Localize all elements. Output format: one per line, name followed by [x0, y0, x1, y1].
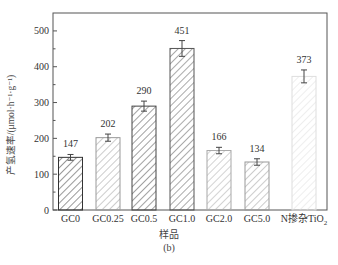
y-tick-label: 0	[44, 205, 49, 216]
value-label: 373	[297, 54, 312, 65]
figure-caption: (b)	[0, 242, 338, 253]
x-tick-label: GC1.0	[169, 213, 195, 224]
bar-GC5.0: 134	[245, 143, 269, 210]
y-axis-label-text: 产氢速率/(μmol·h⁻¹·g⁻¹)	[3, 75, 17, 175]
value-label: 202	[101, 118, 116, 129]
value-label: 451	[175, 25, 190, 36]
x-tick-label: GC0	[61, 213, 80, 224]
y-tick-label: 300	[34, 97, 49, 108]
x-axis-label: 样品	[0, 226, 338, 241]
bar-GC0.5: 290	[132, 85, 156, 210]
y-tick-label: 200	[34, 133, 49, 144]
x-tick-label: GC0.25	[92, 213, 123, 224]
x-tick-label: GC0.5	[131, 213, 157, 224]
bar-N掺杂TiO2: 373	[292, 54, 316, 210]
bar-GC2.0: 166	[207, 131, 231, 210]
value-label: 166	[212, 131, 227, 142]
bar-GC0: 147	[59, 138, 83, 210]
bar-rect	[170, 48, 194, 210]
x-tick-label: GC2.0	[206, 213, 232, 224]
bar-rect	[207, 151, 231, 210]
value-label: 290	[137, 85, 152, 96]
y-tick-label: 100	[34, 169, 49, 180]
x-tick-label: N掺杂TiO2	[281, 212, 328, 227]
bar-rect	[245, 162, 269, 210]
x-tick-label: GC5.0	[244, 213, 270, 224]
bar-rect	[59, 157, 83, 210]
y-axis-label: 产氢速率/(μmol·h⁻¹·g⁻¹)	[2, 60, 18, 190]
value-label: 134	[250, 143, 265, 154]
bar-GC1.0: 451	[170, 25, 194, 210]
bar-rect	[292, 76, 316, 210]
bar-rect	[96, 138, 120, 210]
bar-rect	[132, 106, 156, 210]
y-tick-label: 500	[34, 25, 49, 36]
y-tick-label: 400	[34, 61, 49, 72]
bar-GC0.25: 202	[96, 118, 120, 210]
value-label: 147	[63, 138, 78, 149]
